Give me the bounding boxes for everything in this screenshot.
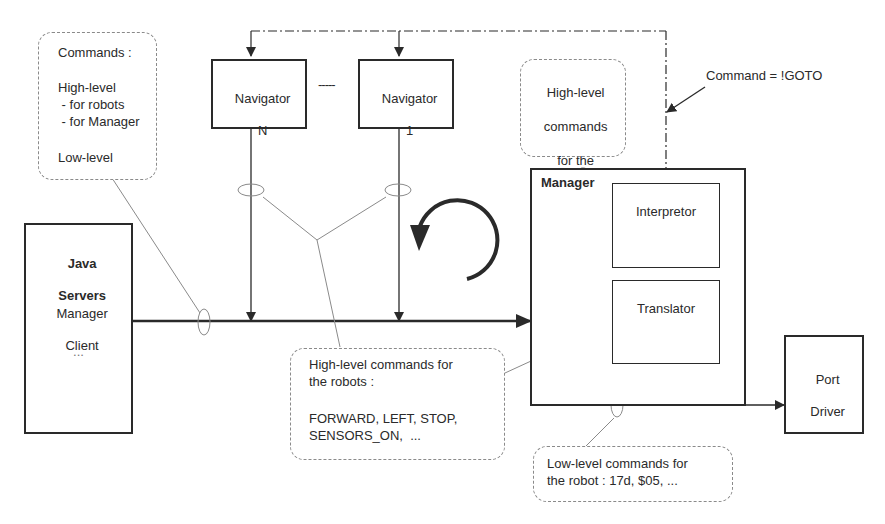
manager-title: Manager — [541, 175, 594, 191]
goto-pointer-arrow — [667, 87, 705, 112]
robot-commands-line3: FORWARD, LEFT, STOP, — [309, 411, 457, 427]
low-level-line1: Low-level commands for — [547, 456, 688, 472]
java-servers-title1: Java — [68, 256, 97, 271]
rotation-arrow-icon — [420, 200, 497, 279]
translator-box — [612, 280, 720, 364]
low-level-line2: the robot : 17d, $05, ... — [547, 473, 678, 489]
navigator-n-label: Navigator N — [211, 75, 307, 139]
commands-callout-line3: - for Manager — [58, 114, 140, 130]
translator-label: Translator — [612, 301, 720, 317]
navigator-n-line1: Navigator — [235, 91, 291, 106]
navigator-ellipsis: ----- — [318, 77, 335, 93]
robot-commands-line2: the robots : — [309, 374, 374, 390]
robot-commands-line4: SENSORS_ON, ... — [309, 428, 421, 444]
port-driver-line2: Driver — [810, 404, 845, 419]
java-servers-more: ... — [24, 344, 133, 360]
port-driver-line1: Port — [816, 372, 840, 387]
manager-commands-line1: High-level — [547, 85, 605, 100]
interpretor-box — [612, 183, 720, 268]
robot-commands-line1: High-level commands for — [309, 357, 453, 373]
java-servers-line1: Manager — [56, 306, 107, 321]
goto-annotation: Command = !GOTO — [706, 68, 822, 84]
navigator-1-label: Navigator 1 — [358, 75, 454, 139]
commands-callout-line1: High-level — [58, 80, 116, 96]
commands-callout-title: Commands : — [58, 45, 132, 61]
manager-commands-line2: commands — [544, 119, 608, 134]
navigator-1-line2: 1 — [406, 123, 413, 138]
manager-commands-line3: for the — [557, 153, 594, 168]
commands-callout-line2: - for robots — [58, 97, 124, 113]
interpretor-label: Interpretor — [612, 204, 720, 220]
navigator-1-line1: Navigator — [382, 91, 438, 106]
navigator-n-line2: N — [258, 123, 267, 138]
commands-callout-line4: Low-level — [58, 150, 113, 166]
port-driver-label: Port Driver — [784, 356, 864, 420]
